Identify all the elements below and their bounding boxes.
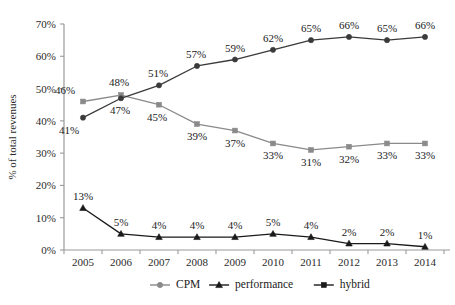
- marker-triangle: [80, 205, 87, 211]
- data-label: 59%: [225, 42, 245, 54]
- data-label: 5%: [114, 216, 129, 228]
- data-labels-layer: 46%48%45%39%37%33%31%32%33%33%13%5%4%4%4…: [55, 19, 435, 241]
- x-tick-label: 2013: [376, 256, 399, 268]
- marker-circle: [270, 47, 275, 52]
- data-label: 66%: [415, 19, 435, 31]
- series-line: [83, 208, 425, 247]
- legend-item-cpm[interactable]: CPM: [150, 278, 200, 290]
- series-line: [83, 37, 425, 118]
- data-label: 4%: [190, 219, 205, 231]
- data-label: 37%: [225, 137, 245, 149]
- series-performance: [80, 205, 429, 250]
- revenue-mix-line-chart: 0%10%20%30%40%50%60%70% % of total reven…: [0, 0, 455, 305]
- marker-triangle: [270, 230, 277, 236]
- data-label: 33%: [377, 149, 397, 161]
- data-label: 46%: [55, 84, 75, 96]
- x-tick-label: 2009: [224, 256, 247, 268]
- data-label: 4%: [152, 219, 167, 231]
- x-tick-label: 2006: [110, 256, 133, 268]
- marker-circle: [80, 115, 85, 120]
- x-axis: [64, 250, 450, 254]
- marker-square: [81, 99, 86, 104]
- legend-item-hybrid[interactable]: hybrid: [314, 278, 370, 291]
- data-label: 32%: [339, 153, 359, 165]
- legend-label: CPM: [176, 278, 200, 290]
- data-label: 45%: [147, 111, 167, 123]
- marker-triangle: [118, 230, 125, 236]
- x-tick-label: 2011: [300, 256, 322, 268]
- y-tick-label: 60%: [36, 50, 56, 62]
- series-line: [83, 95, 425, 150]
- data-label: 65%: [377, 22, 397, 34]
- data-label: 57%: [186, 48, 206, 60]
- data-label: 66%: [339, 19, 359, 31]
- marker-circle: [194, 63, 199, 68]
- data-label: 2%: [342, 226, 357, 238]
- marker-square: [385, 141, 390, 146]
- marker-square: [271, 141, 276, 146]
- marker-square: [233, 128, 238, 133]
- y-tick-label: 40%: [36, 115, 56, 127]
- data-label: 33%: [263, 149, 283, 161]
- marker-square: [347, 144, 352, 149]
- x-tick-label: 2010: [262, 256, 285, 268]
- y-axis: 0%10%20%30%40%50%60%70%: [36, 18, 64, 256]
- marker-circle: [157, 282, 162, 287]
- marker-square: [195, 122, 200, 127]
- marker-circle: [384, 38, 389, 43]
- marker-circle: [118, 96, 123, 101]
- marker-square: [157, 102, 162, 107]
- marker-square: [321, 283, 326, 288]
- data-label: 51%: [148, 67, 168, 79]
- data-label: 31%: [301, 156, 321, 168]
- y-axis-title: % of total revenues: [6, 94, 18, 179]
- data-label: 62%: [263, 32, 283, 44]
- y-tick-label: 10%: [36, 212, 56, 224]
- data-label: 65%: [301, 22, 321, 34]
- y-tick-label: 70%: [36, 18, 56, 30]
- data-label: 1%: [418, 229, 433, 241]
- series-cpm: [81, 93, 428, 153]
- x-tick-label: 2008: [186, 256, 209, 268]
- y-axis-title-text: % of total revenues: [6, 94, 18, 179]
- series-hybrid: [80, 34, 427, 120]
- marker-square: [423, 141, 428, 146]
- data-label: 5%: [266, 216, 281, 228]
- x-tick-label: 2012: [338, 256, 360, 268]
- data-label: 39%: [187, 130, 207, 142]
- chart-canvas: 0%10%20%30%40%50%60%70% % of total reven…: [0, 0, 455, 305]
- legend-item-performance[interactable]: performance: [209, 278, 293, 291]
- data-label: 13%: [73, 190, 93, 202]
- y-tick-label: 0%: [41, 244, 56, 256]
- marker-circle: [156, 83, 161, 88]
- x-tick-labels: 2005200620072008200920102011201220132014: [72, 256, 437, 268]
- data-label: 4%: [228, 219, 243, 231]
- y-tick-label: 20%: [36, 179, 56, 191]
- marker-circle: [232, 57, 237, 62]
- marker-circle: [422, 34, 427, 39]
- data-series-layer: [80, 34, 429, 249]
- data-label: 33%: [415, 149, 435, 161]
- marker-square: [309, 148, 314, 153]
- chart-legend: CPMperformancehybrid: [150, 278, 370, 291]
- data-label: 48%: [109, 76, 129, 88]
- x-tick-label: 2014: [414, 256, 437, 268]
- legend-label: performance: [235, 278, 293, 291]
- data-label: 4%: [304, 219, 319, 231]
- data-label: 2%: [380, 226, 395, 238]
- data-label: 47%: [110, 104, 130, 116]
- x-tick-label: 2007: [148, 256, 171, 268]
- data-label: 41%: [59, 124, 79, 136]
- marker-circle: [308, 38, 313, 43]
- x-tick-label: 2005: [72, 256, 95, 268]
- y-tick-label: 50%: [36, 83, 56, 95]
- y-tick-label: 30%: [36, 147, 56, 159]
- legend-label: hybrid: [340, 278, 370, 291]
- marker-circle: [346, 34, 351, 39]
